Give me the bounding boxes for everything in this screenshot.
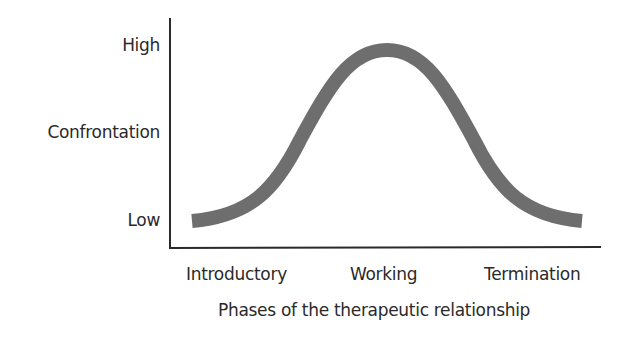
x-tick-introductory: Introductory [186, 264, 287, 284]
y-tick-high: High [122, 35, 160, 55]
x-tick-working: Working [350, 264, 417, 284]
y-axis-title: Confrontation [47, 122, 160, 142]
x-axis [169, 247, 601, 248]
y-tick-low: Low [127, 210, 160, 230]
confrontation-curve [192, 50, 582, 221]
chart-canvas [0, 0, 630, 341]
x-tick-termination: Termination [484, 264, 580, 284]
x-axis-title: Phases of the therapeutic relationship [218, 300, 530, 320]
